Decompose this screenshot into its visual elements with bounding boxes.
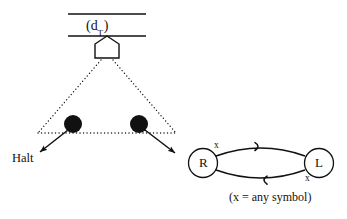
figure-canvas — [0, 0, 347, 219]
halt-label: Halt — [12, 152, 34, 165]
tape-label-open: (d — [86, 18, 98, 33]
arrow-to-machine — [145, 130, 175, 153]
automaton-caption: (x = any symbol) — [229, 191, 311, 203]
transition-arrowhead-r-to-l — [255, 143, 258, 151]
read-write-head-icon — [95, 36, 119, 58]
tape-label-close: ) — [104, 18, 109, 33]
arrow-to-halt — [40, 130, 68, 152]
transition-curve-r-to-l — [216, 148, 305, 156]
transition-label-l-to-r: x — [305, 174, 310, 184]
tape-label-subscript: T — [98, 28, 104, 38]
transition-arrowhead-l-to-r — [264, 176, 267, 184]
state-label-l: L — [315, 156, 323, 169]
turing-machine-figure: (dT) Halt R L x x (x = any symbol) — [0, 0, 347, 219]
tape-label: (dT) — [86, 19, 109, 36]
transition-label-r-to-l: x — [214, 141, 219, 151]
state-label-r: R — [199, 156, 208, 169]
transition-curve-l-to-r — [216, 170, 305, 178]
dotted-fan-group — [38, 60, 176, 133]
